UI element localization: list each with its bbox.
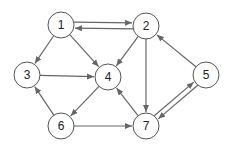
edge-7-to-4 bbox=[117, 88, 138, 116]
edge-4-to-6 bbox=[71, 86, 99, 116]
edge-1-to-2 bbox=[74, 22, 132, 23]
edge-2-to-4 bbox=[116, 36, 138, 65]
node-1: 1 bbox=[48, 12, 74, 38]
node-7: 7 bbox=[133, 113, 159, 139]
graph-canvas: 1234567 bbox=[0, 0, 230, 147]
graph-diagram: 1234567 bbox=[0, 0, 230, 147]
edge-7-to-5 bbox=[154, 82, 193, 116]
edge-5-to-2 bbox=[157, 35, 196, 67]
node-label: 6 bbox=[58, 119, 65, 133]
node-label: 5 bbox=[203, 68, 210, 82]
edge-1-to-4 bbox=[70, 35, 99, 67]
node-label: 7 bbox=[143, 119, 150, 133]
edge-1-to-3 bbox=[35, 36, 54, 64]
node-label: 3 bbox=[24, 68, 31, 82]
node-4: 4 bbox=[95, 64, 121, 90]
node-label: 4 bbox=[105, 70, 112, 84]
node-6: 6 bbox=[48, 113, 74, 139]
node-3: 3 bbox=[14, 62, 40, 88]
edge-3-to-4 bbox=[40, 75, 94, 76]
edge-5-to-7 bbox=[158, 85, 197, 119]
node-label: 1 bbox=[58, 18, 65, 32]
node-label: 2 bbox=[143, 19, 150, 33]
edge-6-to-3 bbox=[35, 87, 54, 116]
node-5: 5 bbox=[193, 62, 219, 88]
node-2: 2 bbox=[133, 13, 159, 39]
edge-2-to-1 bbox=[75, 28, 133, 29]
